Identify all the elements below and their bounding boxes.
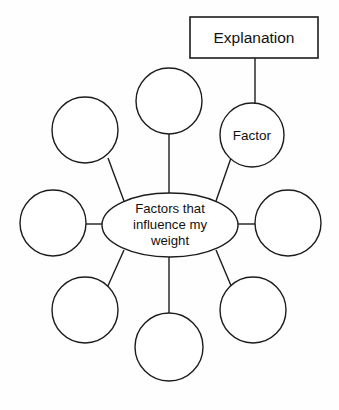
- node-bottom[interactable]: [135, 313, 203, 381]
- node-left[interactable]: [20, 190, 86, 256]
- node-top[interactable]: [136, 68, 202, 134]
- node-lower-left[interactable]: [52, 277, 118, 343]
- spoke-to-node-upper-left: [108, 158, 124, 201]
- center-node-label-line-1: Factors that: [135, 201, 205, 216]
- center-node-label-line-2: influence my: [133, 217, 207, 232]
- node-upper-left[interactable]: [52, 97, 118, 163]
- node-upper-right-label: Factor: [233, 128, 272, 143]
- node-right[interactable]: [255, 190, 321, 256]
- center-node-label-line-3: weight: [150, 233, 189, 248]
- spoke-to-node-lower-right: [216, 250, 232, 288]
- diagram-canvas: Factor Factors that influence my weight …: [0, 0, 339, 410]
- concept-map-diagram: Factor Factors that influence my weight …: [0, 0, 339, 410]
- spoke-to-node-lower-left: [107, 250, 124, 288]
- explanation-box-label: Explanation: [213, 29, 294, 46]
- spoke-to-node-upper-right: [216, 158, 231, 201]
- node-lower-right[interactable]: [220, 277, 286, 343]
